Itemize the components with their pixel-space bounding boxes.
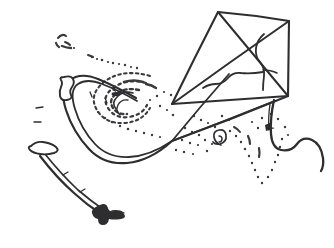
tail-bow-upper [60,76,74,100]
kite-illustration [0,0,334,248]
kite-drawing-canvas [0,0,334,248]
